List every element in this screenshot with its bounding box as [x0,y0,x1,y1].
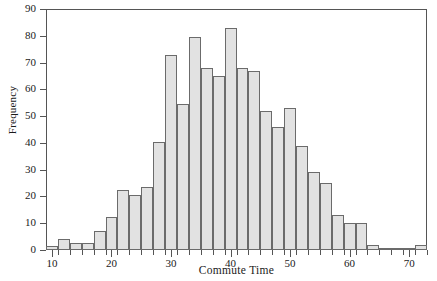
y-axis-tick-label: 80 [0,30,36,41]
x-axis-minor-tick [82,250,83,255]
x-axis-tick-label: 20 [91,257,131,269]
histogram-bar [106,217,118,250]
y-axis-tick-label: 20 [0,190,36,201]
y-axis-title: Frequency [6,60,18,160]
x-axis-minor-tick [284,250,285,255]
x-axis-minor-tick [403,250,404,255]
histogram-bar [129,195,141,250]
y-axis-tick [40,170,46,171]
x-axis-minor-tick [272,250,273,255]
y-axis-tick [40,223,46,224]
y-axis-tick-label: 90 [0,3,36,14]
x-axis-minor-tick [201,250,202,255]
y-axis-tick [40,9,46,10]
histogram-bar [213,76,225,250]
x-axis-tick [52,250,53,257]
x-axis-tick-label: 10 [32,257,72,269]
y-axis-tick [40,116,46,117]
x-axis-minor-tick [379,250,380,255]
x-axis-tick [290,250,291,257]
x-axis-minor-tick [320,250,321,255]
histogram-bar [415,245,427,250]
histogram-bar [260,111,272,250]
histogram-bar [94,231,106,250]
x-axis-minor-tick [106,250,107,255]
histogram-bar [189,37,201,250]
y-axis-tick [40,143,46,144]
x-axis-minor-tick [391,250,392,255]
x-axis-minor-tick [189,250,190,255]
x-axis-tick-label: 50 [270,257,310,269]
histogram-bar [82,243,94,250]
x-axis-tick [231,250,232,257]
y-axis-tick-label: 10 [0,217,36,228]
y-axis-tick [40,250,46,251]
histogram-bar [296,146,308,250]
histogram-bar [344,223,356,250]
y-axis-tick-label: 30 [0,164,36,175]
histogram-bar [165,55,177,250]
x-axis-minor-tick [153,250,154,255]
x-axis-minor-tick [367,250,368,255]
x-axis-minor-tick [415,250,416,255]
y-axis-tick [40,63,46,64]
x-axis-tick-label: 40 [211,257,251,269]
y-axis-tick [40,36,46,37]
histogram-bar [308,172,320,250]
histogram-bar [356,223,368,250]
histogram-bar [153,142,165,250]
histogram-bar [284,108,296,250]
x-axis-minor-tick [141,250,142,255]
y-axis-tick [40,196,46,197]
histogram-bar [248,71,260,250]
x-axis-minor-tick [177,250,178,255]
x-axis-tick-label: 70 [389,257,429,269]
histogram-bar [272,127,284,250]
x-axis-minor-tick [58,250,59,255]
histogram-bar [379,248,391,250]
histogram-bar [225,28,237,250]
histogram-bar [320,183,332,250]
x-axis-minor-tick [248,250,249,255]
x-axis-minor-tick [427,250,428,255]
histogram-bar [391,248,403,250]
histogram-bar [58,239,70,250]
x-axis-tick-label: 30 [151,257,191,269]
histogram-bar [367,245,379,250]
bars-layer [46,9,427,250]
histogram-bar [117,190,129,250]
x-axis-minor-tick [213,250,214,255]
x-axis-tick [409,250,410,257]
y-axis-tick [40,89,46,90]
histogram-figure: 0102030405060708090 Frequency Commute Ti… [0,0,437,281]
x-axis-minor-tick [296,250,297,255]
histogram-bar [70,243,82,250]
x-axis-minor-tick [165,250,166,255]
x-axis-minor-tick [225,250,226,255]
x-axis-minor-tick [356,250,357,255]
histogram-bar [177,104,189,250]
x-axis-minor-tick [117,250,118,255]
x-axis-minor-tick [237,250,238,255]
y-axis-tick-label: 0 [0,244,36,255]
x-axis-minor-tick [260,250,261,255]
x-axis-minor-tick [94,250,95,255]
x-axis-minor-tick [129,250,130,255]
x-axis-tick [111,250,112,257]
x-axis-tick [171,250,172,257]
histogram-bar [237,68,249,250]
x-axis-minor-tick [344,250,345,255]
histogram-bar [141,187,153,250]
histogram-bar [332,215,344,250]
x-axis-tick-label: 60 [330,257,370,269]
x-axis-tick [350,250,351,257]
histogram-bar [201,68,213,250]
x-axis-minor-tick [308,250,309,255]
x-axis-minor-tick [332,250,333,255]
x-axis-minor-tick [70,250,71,255]
